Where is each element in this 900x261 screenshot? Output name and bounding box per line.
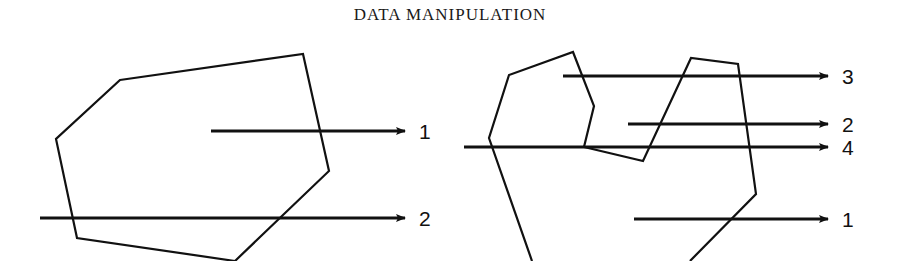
ray-crossing-count-label: 2 xyxy=(419,207,431,230)
ray-crossing-count-label: 4 xyxy=(842,136,854,159)
ray-crossing-count-label: 1 xyxy=(419,120,431,143)
convex-polygon-diagram: 12 xyxy=(40,54,431,261)
point-in-polygon-figure: 12 3241 xyxy=(0,0,900,261)
concave-polygon-diagram: 3241 xyxy=(464,52,854,261)
ray-crossing-count-label: 1 xyxy=(842,208,854,231)
concave-polygon xyxy=(489,52,756,261)
ray-crossing-count-label: 2 xyxy=(842,113,854,136)
convex-polygon xyxy=(56,54,329,261)
ray-crossing-count-label: 3 xyxy=(842,65,854,88)
